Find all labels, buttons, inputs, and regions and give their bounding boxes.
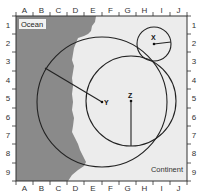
row-label-left: 2: [6, 39, 11, 48]
col-label-top: J: [177, 6, 181, 15]
col-label-top: G: [124, 6, 130, 15]
row-label-left: 4: [6, 76, 11, 85]
row-label-right: 6: [192, 113, 197, 122]
col-label-top: D: [73, 6, 79, 15]
point-x-label: X: [151, 34, 156, 41]
col-label-bottom: F: [108, 184, 113, 193]
point-z-marker: [130, 100, 133, 103]
row-label-right: 3: [192, 57, 197, 66]
col-label-bottom: B: [39, 184, 44, 193]
point-x-marker: [153, 43, 156, 46]
continent-label: Continent: [151, 165, 184, 174]
row-label-right: 8: [192, 149, 197, 158]
col-label-bottom: D: [73, 184, 79, 193]
row-label-left: 5: [6, 94, 11, 103]
col-label-bottom: G: [124, 184, 130, 193]
row-label-left: 7: [6, 131, 11, 140]
row-label-left: 3: [6, 57, 11, 66]
col-label-bottom: C: [56, 184, 62, 193]
col-label-bottom: A: [22, 184, 28, 193]
row-label-left: 8: [6, 149, 11, 158]
point-z-label: Z: [128, 92, 133, 99]
row-label-right: 2: [192, 39, 197, 48]
row-label-left: 9: [6, 168, 11, 177]
row-label-right: 4: [192, 76, 197, 85]
row-label-left: 1: [6, 21, 11, 30]
col-label-top: C: [56, 6, 62, 15]
col-label-top: H: [142, 6, 148, 15]
col-label-bottom: E: [90, 184, 95, 193]
col-label-top: F: [108, 6, 113, 15]
col-label-bottom: H: [142, 184, 148, 193]
point-y-marker: [101, 101, 104, 104]
epicenter-map-diagram: A B C D E F G H I J A B C D E F G H I J …: [0, 0, 200, 194]
ocean-label: Ocean: [21, 20, 43, 29]
col-label-top: B: [39, 6, 44, 15]
col-label-top: E: [90, 6, 95, 15]
col-label-top: I: [160, 6, 162, 15]
col-label-bottom: I: [160, 184, 162, 193]
row-label-right: 1: [192, 21, 197, 30]
col-label-bottom: J: [177, 184, 181, 193]
col-label-top: A: [22, 6, 28, 15]
row-label-left: 6: [6, 113, 11, 122]
row-label-right: 5: [192, 94, 197, 103]
point-y-label: Y: [104, 99, 109, 106]
row-label-right: 7: [192, 131, 197, 140]
row-label-right: 9: [192, 168, 197, 177]
